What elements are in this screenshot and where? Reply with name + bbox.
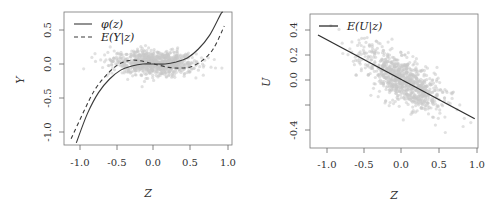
left-ytick-label: -0.5	[42, 88, 53, 107]
left-xtick-label: 1.0	[220, 157, 236, 168]
right-xtick-label: 1.0	[469, 159, 485, 170]
left-xtick-label: -0.5	[107, 157, 126, 168]
left-xtick-label: -1.0	[70, 157, 89, 168]
right-legend: E(U|z)	[319, 20, 382, 34]
right-x-axis-title: Z	[389, 189, 398, 202]
left-legend: φ(z) E(Y|z)	[74, 18, 134, 45]
right-xtick-label: -0.5	[354, 159, 373, 170]
right-y-axis-title: U	[260, 77, 273, 87]
left-ytick-label: -1.0	[42, 122, 53, 141]
right-legend-eu: E(U|z)	[346, 20, 382, 34]
right-x-ticks	[327, 148, 477, 153]
right-ytick-label: 0.4	[288, 22, 299, 38]
right-y-ticks	[305, 30, 310, 130]
right-xtick-label: -1.0	[317, 159, 336, 170]
left-x-ticks	[80, 145, 228, 150]
left-x-axis-title: Z	[143, 187, 152, 200]
left-ytick-label: 0.0	[42, 56, 53, 72]
figure: -1.0 -0.5 0.0 0.5 1.0 0.5 0.0 -0.5 -1.0 …	[0, 0, 495, 210]
right-panel: -1.0 -0.5 0.0 0.5 1.0 0.4 0.2 0.0 -0.4 Z…	[260, 14, 485, 202]
left-xtick-label: 0.0	[145, 157, 161, 168]
left-ey-curve	[71, 26, 224, 139]
right-ytick-label: -0.4	[288, 120, 299, 139]
right-ytick-label: 0.2	[288, 47, 299, 63]
right-xtick-label: 0.0	[393, 159, 409, 170]
left-panel: -1.0 -0.5 0.0 0.5 1.0 0.5 0.0 -0.5 -1.0 …	[14, 12, 236, 200]
right-ytick-label: 0.0	[288, 72, 299, 88]
left-legend-ey: E(Y|z)	[100, 31, 134, 45]
left-y-axis-title: Y	[14, 75, 27, 84]
left-legend-phi: φ(z)	[101, 18, 123, 31]
left-phi-curve	[76, 12, 223, 143]
right-eu-line	[318, 35, 475, 119]
right-xtick-label: 0.5	[431, 159, 447, 170]
left-scatter-points	[82, 44, 223, 88]
left-ytick-label: 0.5	[42, 22, 53, 38]
left-xtick-label: 0.5	[182, 157, 198, 168]
left-y-ticks	[59, 30, 64, 132]
